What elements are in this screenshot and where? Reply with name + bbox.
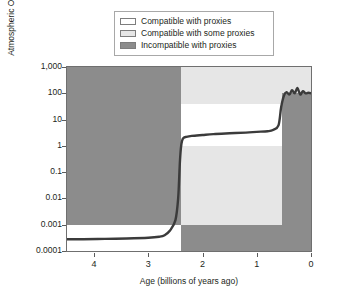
x-axis-label: Age (billions of years ago) [66, 276, 312, 286]
y-tick-label: 0.1 [50, 167, 62, 176]
y-tick-mark [62, 67, 66, 68]
plot-area [66, 66, 312, 252]
y-tick-label: 0.01 [45, 193, 62, 202]
legend-label-compatible: Compatible with proxies [141, 17, 231, 26]
y-tick-mark [62, 251, 66, 252]
legend-label-some-proxies: Compatible with some proxies [141, 29, 254, 38]
y-tick-mark [62, 120, 66, 121]
x-tick-label: 2 [193, 259, 213, 269]
y-tick-label: 10 [53, 115, 62, 124]
x-tick-mark [148, 253, 149, 257]
oxygen-curve-path [67, 88, 311, 239]
legend-item-incompatible: Incompatible with proxies [120, 40, 268, 51]
y-tick-label: 1 [57, 141, 62, 150]
x-tick-mark [257, 253, 258, 257]
y-tick-mark [62, 93, 66, 94]
x-tick-label: 1 [247, 259, 267, 269]
light-gray-swatch [120, 30, 136, 37]
oxygen-curve [67, 67, 311, 251]
white-swatch [120, 18, 136, 25]
y-tick-mark [62, 198, 66, 199]
x-tick-label: 0 [301, 259, 321, 269]
legend-item-some-proxies: Compatible with some proxies [120, 28, 268, 39]
x-tick-mark [94, 253, 95, 257]
x-tick-mark [203, 253, 204, 257]
dark-gray-swatch [120, 42, 136, 49]
y-tick-label: 0.0001 [36, 246, 62, 255]
y-tick-mark [62, 225, 66, 226]
y-tick-mark [62, 172, 66, 173]
oxygen-history-chart: Compatible with proxies Compatible with … [0, 0, 341, 304]
legend-item-compatible: Compatible with proxies [120, 16, 268, 27]
y-axis-label: Atmospheric O2 (percentage of PAL) [4, 0, 18, 80]
x-tick-label: 3 [138, 259, 158, 269]
legend-label-incompatible: Incompatible with proxies [141, 41, 236, 50]
y-tick-label: 100 [48, 88, 62, 97]
y-tick-label: 0.001 [41, 220, 62, 229]
x-tick-mark [311, 253, 312, 257]
chart-legend: Compatible with proxies Compatible with … [114, 11, 274, 56]
y-tick-label: 1,000 [41, 62, 62, 71]
y-axis-label-main: Atmospheric O [6, 0, 16, 56]
x-tick-label: 4 [84, 259, 104, 269]
y-tick-mark [62, 146, 66, 147]
